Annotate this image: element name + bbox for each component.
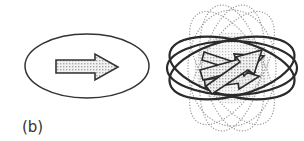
right-arrow-icon [56, 54, 118, 80]
left-diagram [25, 34, 149, 98]
figure-canvas [0, 0, 304, 141]
panel-label: (b) [22, 118, 43, 136]
right-diagram [163, 0, 301, 138]
